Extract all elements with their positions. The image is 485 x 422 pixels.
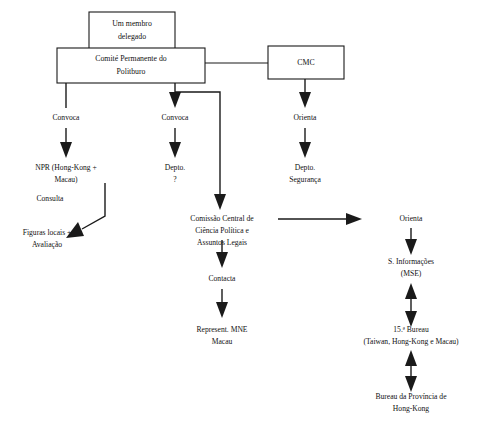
node-npr[interactable]: NPR (Hong-Kong + Macau)	[35, 163, 97, 184]
edge-orienta-to-mse	[405, 228, 417, 255]
box-comite-line1: Comité Permanente do	[95, 54, 167, 63]
node-depto-q-line1: Depto.	[165, 163, 186, 172]
edge-mse-to-bureau15	[405, 283, 417, 327]
box-membro-line1: Um membro	[112, 19, 152, 28]
box-membro-line2: delegado	[118, 32, 146, 41]
edge-comissao-to-mse	[278, 213, 362, 225]
edge-label-convoca-left: Convoca	[53, 113, 81, 122]
node-depto-seg-line1: Depto.	[295, 163, 316, 172]
box-comite-line2: Politburo	[116, 67, 145, 76]
node-mne-line2: Macau	[212, 337, 233, 346]
node-mse-line1: S. Informações	[388, 257, 434, 266]
node-bureau-provincia-hong-kong[interactable]: Bureau da Província de Hong-Kong	[375, 392, 447, 413]
node-figuras-line1: Figuras locais +	[23, 228, 72, 237]
edge-label-contacta: Contacta	[209, 274, 237, 283]
edge-bureau15-to-bureau-hk	[405, 350, 417, 392]
node-comissao-line3: Assuntos Legais	[197, 238, 247, 247]
node-bureau-hk-line2: Hong-Kong	[393, 404, 429, 413]
node-depto-seg-line2: Segurança	[289, 175, 321, 184]
node-comissao-central[interactable]: Comissão Central de Ciência Política e A…	[190, 214, 254, 247]
node-figuras-line2: Avaliação	[32, 240, 62, 249]
node-bureau15-line1: 15.ª Bureau	[393, 325, 429, 334]
node-npr-line1: NPR (Hong-Kong +	[35, 163, 97, 172]
node-bureau15-line2: (Taiwan, Hong-Kong e Macau)	[363, 337, 459, 346]
node-mne-line1: Represent. MNE	[196, 325, 247, 334]
box-comite-permanente-politburo[interactable]: Comité Permanente do Politburo	[57, 48, 205, 83]
node-15-bureau[interactable]: 15.ª Bureau (Taiwan, Hong-Kong e Macau)	[363, 325, 459, 346]
edge-comite-to-comissao	[175, 92, 226, 210]
node-bureau-hk-line1: Bureau da Província de	[375, 392, 447, 401]
node-represent-mne-macau[interactable]: Represent. MNE Macau	[196, 325, 247, 346]
box-cmc[interactable]: CMC	[268, 46, 344, 79]
edge-label-consulta: Consulta	[36, 194, 64, 203]
edge-npr-to-figuras	[66, 183, 105, 238]
node-npr-line2: Macau)	[54, 175, 78, 184]
edge-label-orienta-right: Orienta	[294, 113, 317, 122]
flowchart-diagram: Um membro delegado Comité Permanente do …	[0, 0, 485, 422]
edge-label-convoca-middle: Convoca	[162, 113, 190, 122]
node-depto-seguranca[interactable]: Depto. Segurança	[289, 163, 321, 184]
box-um-membro-delegado[interactable]: Um membro delegado	[89, 12, 175, 49]
flowchart-canvas: Um membro delegado Comité Permanente do …	[0, 0, 485, 422]
node-depto-q-line2: ?	[173, 175, 177, 184]
edge-label-orienta-mse: Orienta	[400, 214, 423, 223]
node-mse-line2: (MSE)	[401, 269, 422, 278]
node-comissao-line1: Comissão Central de	[190, 214, 254, 223]
node-figuras-locais[interactable]: Figuras locais + Avaliação	[23, 228, 72, 249]
box-cmc-line1: CMC	[297, 58, 314, 67]
node-comissao-line2: Ciência Política e	[195, 226, 249, 235]
node-depto-desconhecido[interactable]: Depto. ?	[165, 163, 186, 184]
node-s-informacoes-mse[interactable]: S. Informações (MSE)	[388, 257, 434, 278]
